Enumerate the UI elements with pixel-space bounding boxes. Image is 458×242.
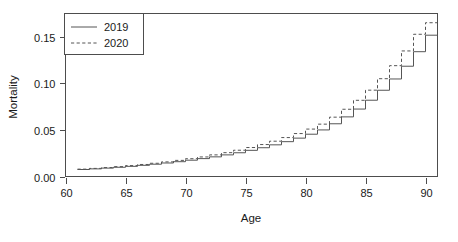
x-tick-label: 90 (420, 187, 432, 199)
x-axis-tick-labels: 60657075808590 (60, 187, 432, 199)
mortality-by-age-step-chart: 60657075808590 0.000.050.100.15 2019 202… (0, 0, 458, 242)
legend-label-2020: 2020 (104, 37, 128, 49)
y-tick-label: 0.00 (34, 172, 55, 184)
y-tick-label: 0.15 (34, 32, 55, 44)
x-axis-ticks (67, 178, 427, 184)
x-tick-label: 70 (180, 187, 192, 199)
x-tick-label: 65 (120, 187, 132, 199)
y-tick-label: 0.05 (34, 125, 55, 137)
x-tick-label: 60 (60, 187, 72, 199)
y-axis-title: Mortality (7, 75, 19, 119)
legend-label-2019: 2019 (104, 21, 128, 33)
legend: 2019 2020 (65, 14, 144, 55)
x-tick-label: 80 (300, 187, 312, 199)
series-line-2019 (78, 35, 438, 169)
y-axis-tick-labels: 0.000.050.100.15 (34, 32, 55, 184)
y-axis-ticks (60, 38, 65, 178)
x-tick-label: 75 (240, 187, 252, 199)
chart-figure: 60657075808590 0.000.050.100.15 2019 202… (0, 0, 458, 242)
x-axis-title: Age (241, 212, 261, 224)
x-tick-label: 85 (360, 187, 372, 199)
y-tick-label: 0.10 (34, 78, 55, 90)
